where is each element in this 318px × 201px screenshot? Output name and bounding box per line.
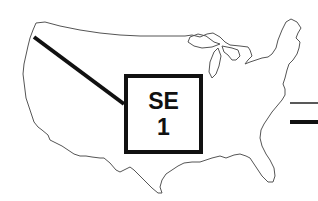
label-line-2: 1 bbox=[157, 114, 170, 140]
leader-line bbox=[34, 37, 124, 104]
label-line-1: SE bbox=[148, 88, 179, 114]
station-label-box: SE 1 bbox=[124, 74, 203, 154]
